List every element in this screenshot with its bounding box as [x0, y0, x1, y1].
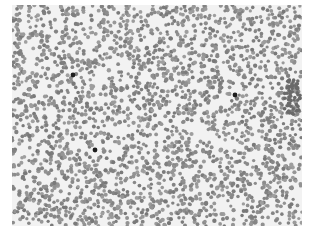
microscopy-image	[12, 5, 302, 226]
cell-field-canvas	[12, 5, 302, 226]
